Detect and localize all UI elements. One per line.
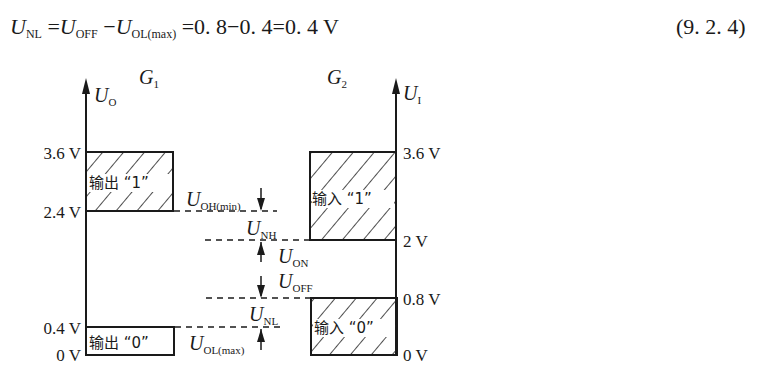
label-u-ol-max: UOL(max) [189, 332, 245, 357]
label-u-oh-min: UOH(min) [186, 188, 241, 213]
label-u-nh: UNH [246, 217, 276, 241]
tick-0.8v: 0.8 V [403, 290, 441, 309]
arrow-up-icon [257, 242, 265, 255]
label-u-off: UOFF [278, 270, 313, 294]
output-low-label: 输出 “0” [89, 334, 149, 352]
label-u-nl: UNL [249, 303, 278, 327]
left-axis-label: UO [94, 84, 116, 108]
arrow-down-icon [257, 285, 265, 298]
arrow-down-icon [257, 198, 265, 211]
arrow-up-icon [82, 78, 90, 94]
tick-0v: 0 V [403, 346, 428, 365]
arrow-up-icon [392, 78, 400, 94]
tick-3.6v: 3.6 V [403, 144, 441, 163]
tick-2.4v: 2.4 V [44, 203, 82, 222]
input-high-label: 输入 “1” [312, 190, 372, 208]
tick-2v: 2 V [403, 232, 428, 251]
tick-0v: 0 V [56, 346, 81, 365]
gate-g2-label: G2 [327, 66, 347, 90]
right-axis-label: UI [403, 82, 421, 106]
gate-g1-label: G1 [139, 66, 159, 90]
tick-3.6v: 3.6 V [44, 144, 82, 163]
arrow-up-icon [257, 329, 265, 342]
noise-margin-diagram: UO G1 3.6 V 2.4 V 0.4 V 0 V 输出 “1” 输出 “0… [0, 0, 781, 380]
input-low-label: 输入 “0” [314, 319, 374, 337]
label-u-on: UON [278, 245, 308, 269]
tick-0.4v: 0.4 V [44, 319, 82, 338]
output-high-label: 输出 “1” [89, 174, 149, 192]
